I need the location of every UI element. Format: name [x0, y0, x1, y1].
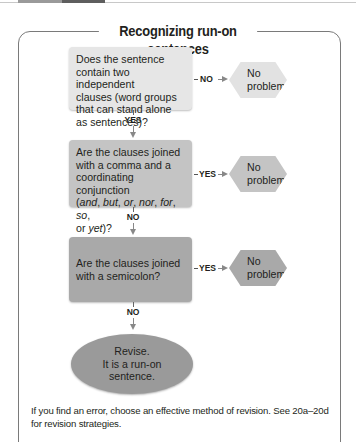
question-line: contain two independent — [76, 66, 185, 91]
no-connector-3: NO — [118, 302, 148, 334]
no-problem-hexagon-1: No problem — [229, 62, 287, 98]
arrow-down-icon — [130, 132, 136, 138]
arrow-right-icon — [222, 171, 228, 177]
connector-label: YES — [199, 169, 216, 179]
connector-line — [194, 79, 198, 80]
top-tab-light — [18, 0, 62, 3]
question-line: clauses (word groups — [76, 91, 185, 104]
connector-label: YES — [118, 115, 148, 125]
conjunction: but — [103, 196, 118, 208]
question-line: with a comma and a — [76, 159, 185, 172]
conjunction: so — [76, 209, 87, 221]
connector-line — [194, 268, 198, 269]
yes-connector-3: YES — [192, 263, 229, 273]
connector-label: NO — [118, 212, 148, 222]
question-box-semicolon: Are the clauses joined with a semicolon? — [69, 237, 192, 302]
conjunction: for — [160, 196, 172, 208]
connector-label: YES — [199, 263, 216, 273]
conjunction: and — [80, 196, 98, 208]
top-tab-dark — [62, 0, 105, 3]
revise-ellipse: Revise. It is a run-on sentence. — [71, 334, 193, 394]
question-line: Are the clauses joined — [76, 257, 180, 270]
flowchart-title: Recognizing run-on sentences — [99, 22, 257, 40]
yes-connector-1: YES — [118, 110, 148, 140]
conjunction: yet — [88, 222, 102, 234]
question-text: Are the clauses joined with a semicolon? — [76, 257, 180, 282]
arrow-right-icon — [222, 76, 228, 82]
final-line: It is a run-on — [71, 358, 193, 371]
connector-label: NO — [118, 307, 148, 317]
question-line: with a semicolon? — [76, 270, 180, 283]
no-connector-1: NO — [192, 74, 229, 84]
question-line: Are the clauses joined — [76, 146, 185, 159]
connector-label: NO — [200, 74, 213, 84]
question-box-comma-conjunction: Are the clauses joined with a comma and … — [69, 140, 192, 207]
no-connector-2: NO — [118, 207, 148, 237]
arrow-right-icon — [222, 265, 228, 271]
connector-line — [194, 174, 198, 175]
final-line: Revise. — [71, 345, 193, 358]
final-line: sentence. — [71, 370, 193, 383]
footer-note: If you find an error, choose an effectiv… — [31, 404, 336, 430]
question-box-independent-clauses: Does the sentence contain two independen… — [69, 47, 192, 110]
arrow-down-icon — [130, 229, 136, 235]
no-problem-hexagon-2: No problem — [229, 156, 287, 192]
question-line: coordinating conjunction — [76, 171, 185, 196]
arrow-down-icon — [130, 324, 136, 330]
yes-connector-2: YES — [192, 169, 229, 179]
no-problem-hexagon-3: No problem — [229, 250, 287, 286]
question-line: Does the sentence — [76, 53, 185, 66]
